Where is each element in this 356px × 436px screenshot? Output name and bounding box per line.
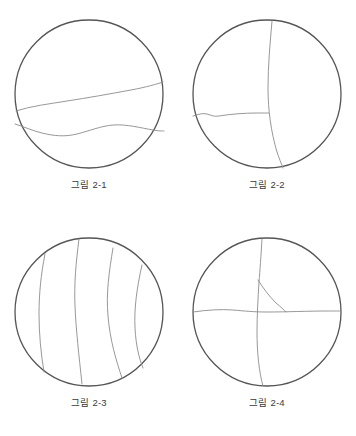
figure-caption: 그림 2-1: [71, 180, 107, 190]
figure-cell-2-4: 그림 2-4: [178, 218, 356, 436]
figure-cell-2-3: 그림 2-3: [0, 218, 178, 436]
figure-caption: 그림 2-3: [71, 398, 107, 408]
figure-2-2-drawing: [187, 14, 347, 174]
figure-2-3-drawing: [9, 232, 169, 392]
figure-caption: 그림 2-4: [249, 398, 285, 408]
vertical-crack: [268, 21, 283, 168]
circle-outline: [15, 20, 163, 168]
lower-horizontal-crack: [15, 124, 164, 136]
figure-2-1-drawing: [9, 14, 169, 174]
figure-2-4-drawing: [187, 232, 347, 392]
vertical-crack: [257, 239, 263, 386]
figure-caption: 그림 2-2: [249, 180, 285, 190]
circle-outline: [15, 238, 163, 386]
figure-cell-2-2: 그림 2-2: [178, 0, 356, 218]
vertical-crack-4: [135, 265, 143, 368]
left-horizontal-crack: [193, 113, 269, 116]
figure-sheet: 그림 2-1 그림 2-2 그림 2-3: [0, 0, 356, 436]
vertical-crack-1: [39, 254, 45, 372]
circle-outline: [193, 20, 341, 168]
diagonal-branch-crack: [258, 280, 286, 312]
figure-grid: 그림 2-1 그림 2-2 그림 2-3: [0, 0, 356, 436]
vertical-crack-3: [107, 248, 122, 378]
horizontal-crack: [193, 310, 341, 312]
upper-horizontal-crack: [16, 82, 163, 111]
vertical-crack-2: [75, 239, 82, 384]
figure-cell-2-1: 그림 2-1: [0, 0, 178, 218]
